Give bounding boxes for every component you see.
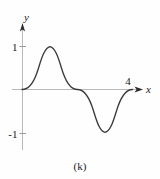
- x-axis-label: x: [145, 83, 151, 95]
- y-tick-label-negative-one: -1: [8, 128, 17, 140]
- plot-svg: y x 1 -1 4 (k): [0, 0, 160, 179]
- x-tick-label-four: 4: [125, 75, 131, 87]
- y-axis-label: y: [23, 11, 29, 23]
- figure-container: y x 1 -1 4 (k): [0, 0, 160, 179]
- figure-caption: (k): [74, 160, 87, 173]
- y-tick-label-positive-one: 1: [12, 41, 18, 53]
